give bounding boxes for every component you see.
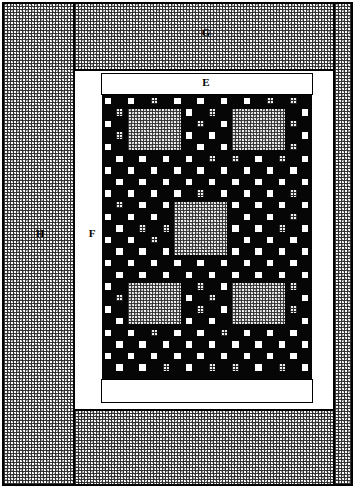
core-cell — [221, 306, 227, 312]
core-cell — [302, 132, 308, 138]
core-cell — [209, 132, 215, 138]
label-f: F — [84, 228, 100, 239]
band-E-bottom — [101, 379, 313, 403]
core-cell — [302, 272, 308, 278]
core-cell — [290, 353, 296, 359]
core-cell — [151, 167, 157, 173]
core-cell — [302, 364, 308, 370]
core-cell — [139, 202, 145, 208]
core-cell — [163, 272, 169, 278]
core-cell — [197, 167, 203, 173]
core-cell — [255, 341, 261, 347]
core-cell — [279, 202, 285, 208]
core-cell — [151, 330, 157, 336]
core-cell — [244, 353, 250, 359]
core-cell — [174, 353, 180, 359]
region-H-left — [3, 3, 74, 485]
core-cell — [209, 156, 215, 162]
core-cell — [267, 330, 273, 336]
core-cell — [197, 306, 203, 312]
core-cell — [290, 214, 296, 220]
core-cell — [105, 121, 111, 127]
core-cell — [197, 353, 203, 359]
patent-figure: EFGH — [0, 0, 356, 490]
core-cell — [221, 330, 227, 336]
core-cell — [232, 202, 238, 208]
core-cell — [105, 353, 111, 359]
core-cell — [290, 260, 296, 266]
core-cell — [279, 364, 285, 370]
core-cell — [116, 132, 122, 138]
core-cell — [209, 364, 215, 370]
core-cell — [105, 237, 111, 243]
core-cell — [232, 225, 238, 231]
core-cell — [128, 353, 134, 359]
core-cell — [290, 98, 296, 104]
core-cell — [302, 318, 308, 324]
core-cell — [232, 341, 238, 347]
core-cell — [244, 237, 250, 243]
core-cell — [209, 341, 215, 347]
core-cell — [302, 248, 308, 254]
core-cell — [267, 214, 273, 220]
core-cell — [116, 341, 122, 347]
core-cell — [221, 98, 227, 104]
core-cell — [105, 214, 111, 220]
core-cell — [221, 144, 227, 150]
core-cell — [116, 156, 122, 162]
inset-block-top-right — [232, 109, 285, 150]
core-cell — [197, 330, 203, 336]
core-cell — [105, 144, 111, 150]
core-cell — [163, 341, 169, 347]
core-cell — [128, 167, 134, 173]
core-cell — [209, 295, 215, 301]
core-cell — [105, 98, 111, 104]
core-cell — [221, 190, 227, 196]
inset-block-bottom-right — [232, 283, 285, 324]
core-cell — [151, 190, 157, 196]
core-cell — [232, 179, 238, 185]
core-cell — [105, 283, 111, 289]
core-cell — [174, 260, 180, 266]
core-cell — [128, 330, 134, 336]
core-cell — [302, 156, 308, 162]
core-cell — [116, 272, 122, 278]
core-cell — [105, 260, 111, 266]
core-cell — [244, 167, 250, 173]
core-cell — [128, 98, 134, 104]
core-cell — [290, 144, 296, 150]
core-cell — [163, 248, 169, 254]
core-cell — [244, 190, 250, 196]
core-cell — [105, 190, 111, 196]
core-cell — [221, 353, 227, 359]
core-cell — [302, 109, 308, 115]
core-cell — [244, 98, 250, 104]
region-H-right — [334, 3, 352, 485]
core-cell — [139, 364, 145, 370]
core-cell — [221, 167, 227, 173]
core-cell — [116, 318, 122, 324]
core-cell — [163, 202, 169, 208]
core-cell — [128, 237, 134, 243]
core-cell — [255, 364, 261, 370]
core-cell — [197, 121, 203, 127]
core-cell — [116, 364, 122, 370]
core-cell — [151, 353, 157, 359]
inset-block-top-left — [128, 109, 181, 150]
core-cell — [186, 318, 192, 324]
core-cell — [255, 179, 261, 185]
core-cell — [197, 144, 203, 150]
core-cell — [267, 353, 273, 359]
core-cell — [302, 202, 308, 208]
core-cell — [151, 98, 157, 104]
core-cell — [186, 364, 192, 370]
core-cell — [232, 248, 238, 254]
core-cell — [244, 260, 250, 266]
core-cell — [302, 295, 308, 301]
core-cell — [116, 248, 122, 254]
core-cell — [290, 237, 296, 243]
core-cell — [128, 190, 134, 196]
inset-block-bottom-left — [128, 283, 181, 324]
core-cell — [151, 237, 157, 243]
label-e: E — [198, 77, 214, 88]
